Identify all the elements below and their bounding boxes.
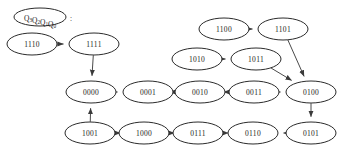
state-node-label-1110: 1110: [24, 40, 40, 49]
state-node-label-1100: 1100: [216, 25, 232, 34]
state-node-label-0111: 0111: [190, 129, 206, 138]
state-node-1000[interactable]: 1000: [119, 122, 169, 144]
state-node-label-0100: 0100: [303, 88, 319, 97]
state-node-label-1011: 1011: [248, 55, 264, 64]
state-node-0000[interactable]: 0000: [66, 81, 116, 103]
state-node-0111[interactable]: 0111: [173, 122, 223, 144]
state-node-1011[interactable]: 1011: [231, 48, 281, 70]
state-node-label-1000: 1000: [136, 129, 152, 138]
state-node-label-0010: 0010: [192, 88, 208, 97]
state-node-label-1101: 1101: [275, 25, 291, 34]
transition-edge-1101-to-0100: [288, 40, 304, 76]
state-node-0001[interactable]: 0001: [123, 81, 173, 103]
state-node-label-0001: 0001: [140, 88, 156, 97]
state-node-1111[interactable]: 1111: [69, 33, 119, 55]
state-node-1001[interactable]: 1001: [65, 122, 115, 144]
transition-edge-1111-to-0000: [92, 55, 93, 76]
state-node-label-1001: 1001: [82, 129, 98, 138]
transition-edge-1011-to-0100: [271, 68, 292, 80]
state-transition-diagram: 1110111111001101101010110000000100100011…: [0, 0, 344, 151]
state-node-1100[interactable]: 1100: [199, 18, 249, 40]
state-node-0100[interactable]: 0100: [286, 81, 336, 103]
state-diagram-canvas: 1110111111001101101010110000000100100011…: [0, 0, 344, 151]
legend-colon: :: [70, 14, 72, 23]
state-node-label-0011: 0011: [246, 88, 262, 97]
state-node-0110[interactable]: 0110: [228, 122, 278, 144]
legend-group: Q3Q2Q1Q0 :: [14, 8, 72, 29]
state-node-label-1111: 1111: [86, 40, 101, 49]
state-node-1010[interactable]: 1010: [172, 48, 222, 70]
state-node-0101[interactable]: 0101: [286, 122, 336, 144]
state-node-label-0110: 0110: [245, 129, 261, 138]
state-node-0010[interactable]: 0010: [175, 81, 225, 103]
state-node-1101[interactable]: 1101: [258, 18, 308, 40]
nodes-layer: 1110111111001101101010110000000100100011…: [7, 18, 336, 144]
state-node-1110[interactable]: 1110: [7, 33, 57, 55]
state-node-label-0000: 0000: [83, 88, 99, 97]
state-node-0011[interactable]: 0011: [229, 81, 279, 103]
state-node-label-0101: 0101: [303, 129, 319, 138]
state-node-label-1010: 1010: [189, 55, 205, 64]
